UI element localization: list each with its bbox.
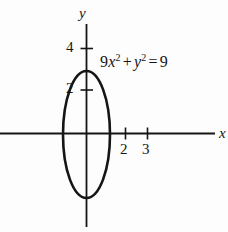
equation-plus-operator: + xyxy=(121,53,134,70)
x-axis-label: x xyxy=(219,126,226,141)
equation-exponent-x: 2 xyxy=(116,52,121,63)
equation-var-x: x xyxy=(108,53,115,70)
y-tick-label-2: 2 xyxy=(66,81,74,96)
x-tick-label-3: 3 xyxy=(142,142,150,157)
x-tick-label-2: 2 xyxy=(120,142,128,157)
y-axis-label: y xyxy=(79,6,86,21)
equation-coefficient-x: 9 xyxy=(100,53,108,70)
ellipse-graph-figure: y x 4 2 2 3 9x2+y2=9 xyxy=(0,0,228,232)
equation-right-hand-side: 9 xyxy=(160,53,168,70)
equation-equals-operator: = xyxy=(146,53,159,70)
coordinate-plot xyxy=(0,0,228,232)
equation-annotation: 9x2+y2=9 xyxy=(100,54,168,70)
y-tick-label-4: 4 xyxy=(66,40,74,55)
